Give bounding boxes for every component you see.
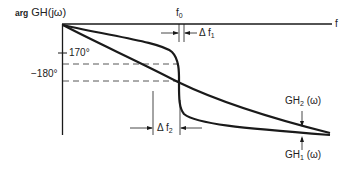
arrowhead-icon: [173, 31, 179, 35]
arrowhead-icon: [300, 136, 304, 142]
f0-label: f0: [176, 8, 183, 19]
curve-gh2: [63, 25, 330, 133]
x-axis-label: f: [335, 19, 338, 29]
y-axis-label: argGH(jω): [15, 7, 66, 18]
curve-gh1: [63, 25, 330, 135]
gh2-label: GH2 (ω): [285, 96, 321, 107]
diagram-canvas: [0, 0, 349, 169]
gh2-arg: (ω): [304, 95, 321, 106]
delta-f2-label: Δ f2: [157, 123, 173, 134]
arrowhead-icon: [180, 126, 186, 130]
gh1-base: GH: [285, 149, 300, 160]
gh1-arg: (ω): [304, 149, 321, 160]
tick-label-170: 170°: [69, 48, 90, 58]
delta-f1-base: Δ f: [199, 27, 211, 38]
arrowhead-icon: [184, 31, 190, 35]
gh2-base: GH: [285, 95, 300, 106]
y-axis-label-main: GH(jω): [31, 6, 66, 18]
f0-sub: 0: [179, 12, 183, 19]
phase-diagram: argGH(jω) 170° −180° f0 f Δ f1 Δ f2 GH2 …: [0, 0, 349, 169]
delta-f1-sub: 1: [211, 32, 215, 39]
delta-f1-label: Δ f1: [199, 28, 215, 39]
arg-prefix: arg: [15, 8, 28, 18]
tick-label-180: −180°: [31, 69, 58, 79]
delta-f2-base: Δ f: [157, 122, 169, 133]
delta-f2-sub: 2: [169, 127, 173, 134]
arrowhead-icon: [147, 126, 153, 130]
gh1-label: GH1 (ω): [285, 150, 321, 161]
